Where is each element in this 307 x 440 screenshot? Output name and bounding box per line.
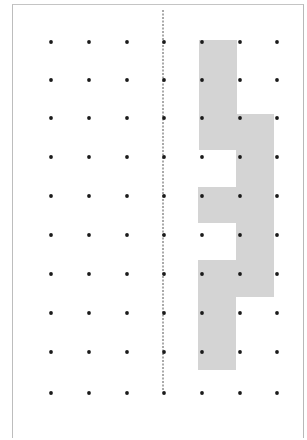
grid-dot (275, 116, 279, 120)
grid-dot (87, 233, 91, 237)
grid-dot (238, 116, 242, 120)
grid-dot (162, 391, 166, 395)
grid-dot (238, 233, 242, 237)
grid-dot (162, 233, 166, 237)
dot-grid-diagram (0, 0, 307, 440)
grid-dot (87, 272, 91, 276)
grid-dot (125, 40, 129, 44)
grid-dot (87, 155, 91, 159)
grid-dot (200, 155, 204, 159)
grid-dot (238, 155, 242, 159)
grid-dot (238, 272, 242, 276)
grid-dot (162, 78, 166, 82)
grid-dot (49, 233, 53, 237)
grid-dot (125, 155, 129, 159)
grid-dot (275, 311, 279, 315)
grid-dot (200, 40, 204, 44)
grid-dot (200, 311, 204, 315)
grid-dot (162, 194, 166, 198)
grid-dot (200, 194, 204, 198)
grid-dot (275, 233, 279, 237)
grid-dot (87, 350, 91, 354)
grid-dot (162, 116, 166, 120)
grid-dot (200, 350, 204, 354)
grid-dot (125, 391, 129, 395)
grid-dot (238, 194, 242, 198)
grid-dot (87, 116, 91, 120)
grid-dot (125, 311, 129, 315)
grid-dot (49, 194, 53, 198)
grid-dot (125, 194, 129, 198)
grid-dot (49, 311, 53, 315)
grid-dot (200, 78, 204, 82)
grid-dot (238, 40, 242, 44)
grid-dot (125, 78, 129, 82)
grid-dot (49, 350, 53, 354)
grid-dot (87, 78, 91, 82)
grid-dot (125, 116, 129, 120)
grid-dot (162, 272, 166, 276)
grid-dot (87, 311, 91, 315)
grid-dot (87, 391, 91, 395)
grid-dot (200, 391, 204, 395)
grid-dot (275, 391, 279, 395)
grid-dot (275, 194, 279, 198)
grid-dot (125, 350, 129, 354)
grid-dot (49, 272, 53, 276)
grid-dot (275, 350, 279, 354)
grid-dot (125, 233, 129, 237)
grid-dot (49, 391, 53, 395)
grid-dot (200, 272, 204, 276)
grid-dot (49, 116, 53, 120)
grid-dot (275, 155, 279, 159)
grid-dot (49, 78, 53, 82)
grid-dot (162, 350, 166, 354)
grid-dot (238, 311, 242, 315)
grid-dot (125, 272, 129, 276)
grid-dot (162, 311, 166, 315)
grid-dot (275, 78, 279, 82)
grid-dot (238, 391, 242, 395)
grid-dot (275, 272, 279, 276)
grid-dot (275, 40, 279, 44)
grid-dot (200, 116, 204, 120)
grid-dot (162, 40, 166, 44)
grid-dot (87, 40, 91, 44)
shaded-shape (198, 40, 274, 370)
grid-dot (162, 155, 166, 159)
grid-dot (238, 78, 242, 82)
grid-dot (87, 194, 91, 198)
grid-dot (238, 350, 242, 354)
grid-dot (200, 233, 204, 237)
grid-dot (49, 155, 53, 159)
grid-dot (49, 40, 53, 44)
